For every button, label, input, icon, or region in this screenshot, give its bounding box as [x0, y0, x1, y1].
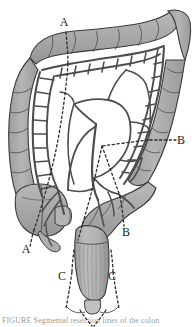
figure-caption: FIGURE Segmental resection lines of the … [2, 317, 159, 325]
anal-canal [85, 300, 101, 314]
label-b-right: B [177, 133, 185, 147]
figure-root: A A B B C C FIGURE Segmental resection l… [0, 0, 196, 327]
label-b-lower: B [122, 225, 130, 239]
figure-caption-strip: FIGURE Segmental resection lines of the … [0, 317, 196, 327]
label-c-right: C [108, 269, 116, 283]
colon-anatomy-diagram: A A B B C C [0, 0, 196, 327]
label-a-bottom: A [22, 242, 31, 256]
label-c-left: C [58, 269, 66, 283]
label-a-top: A [60, 15, 69, 29]
